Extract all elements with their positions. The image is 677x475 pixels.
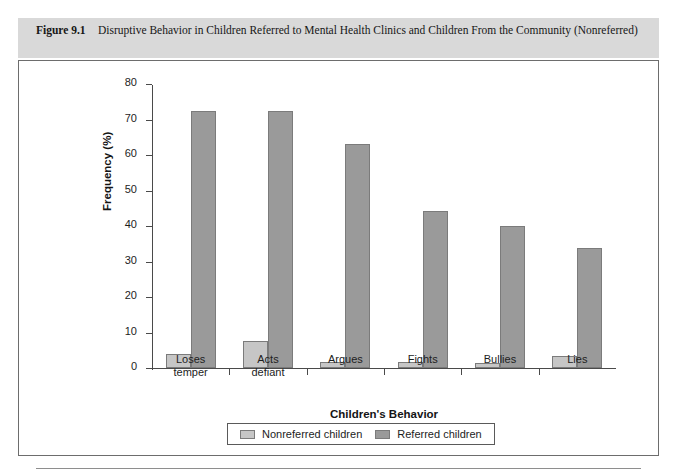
y-tick: 70 (146, 120, 152, 121)
bar-referred-0 (191, 111, 216, 368)
x-tick (384, 369, 385, 375)
y-tick: 30 (146, 262, 152, 263)
legend-label: Referred children (397, 428, 481, 440)
y-tick-label: 40 (125, 218, 137, 230)
y-tick: 20 (146, 297, 152, 298)
category-label-line: Bullies (461, 353, 538, 366)
y-tick-label: 80 (125, 76, 137, 88)
y-tick: 80 (146, 84, 152, 85)
figure-caption: Figure 9.1Disruptive Behavior in Childre… (36, 23, 649, 38)
category-label-line: defiant (229, 366, 306, 379)
y-tick-label: 50 (125, 183, 137, 195)
bar-referred-3 (423, 211, 448, 368)
y-tick-label: 60 (125, 147, 137, 159)
category-label: Bullies (461, 353, 538, 366)
footer-rule (36, 468, 641, 469)
bar-referred-5 (577, 248, 602, 368)
x-tick (461, 369, 462, 375)
x-axis-label: Children's Behavior (152, 408, 616, 420)
plot-area: 01020304050607080 (152, 85, 616, 369)
category-label-line: Fights (384, 353, 461, 366)
category-label-line: Loses (152, 353, 229, 366)
chart-panel: Frequency (%) Children's Behavior 010203… (18, 60, 659, 456)
category-label: Actsdefiant (229, 353, 306, 379)
legend-item: Referred children (375, 428, 481, 440)
y-tick: 10 (146, 333, 152, 334)
category-label: Losestemper (152, 353, 229, 379)
category-label: Fights (384, 353, 461, 366)
y-axis-label: Frequency (%) (101, 132, 113, 211)
y-tick-label: 0 (131, 360, 137, 372)
x-tick (539, 369, 540, 375)
y-axis-line (152, 85, 153, 370)
figure-caption-text: Disruptive Behavior in Children Referred… (98, 23, 638, 38)
figure-caption-band: Figure 9.1Disruptive Behavior in Childre… (18, 18, 659, 58)
bar-referred-2 (345, 144, 370, 368)
bar-referred-4 (500, 226, 525, 368)
y-tick: 40 (146, 226, 152, 227)
y-tick-label: 70 (125, 112, 137, 124)
category-label-line: Acts (229, 353, 306, 366)
y-tick: 60 (146, 155, 152, 156)
category-label: Argues (307, 353, 384, 366)
bar-referred-1 (268, 111, 293, 368)
y-tick-label: 30 (125, 254, 137, 266)
category-label-line: temper (152, 366, 229, 379)
legend-label: Nonreferred children (262, 428, 362, 440)
chart-legend: Nonreferred childrenReferred children (227, 423, 495, 445)
y-tick-label: 10 (125, 325, 137, 337)
legend-item: Nonreferred children (240, 428, 362, 440)
category-label-line: Lies (539, 353, 616, 366)
y-tick: 50 (146, 191, 152, 192)
legend-swatch-referred (375, 430, 390, 439)
category-label-line: Argues (307, 353, 384, 366)
x-tick (307, 369, 308, 375)
y-tick-label: 20 (125, 289, 137, 301)
legend-swatch-nonreferred (240, 430, 255, 439)
figure-number: Figure 9.1 (36, 23, 98, 38)
category-label: Lies (539, 353, 616, 366)
